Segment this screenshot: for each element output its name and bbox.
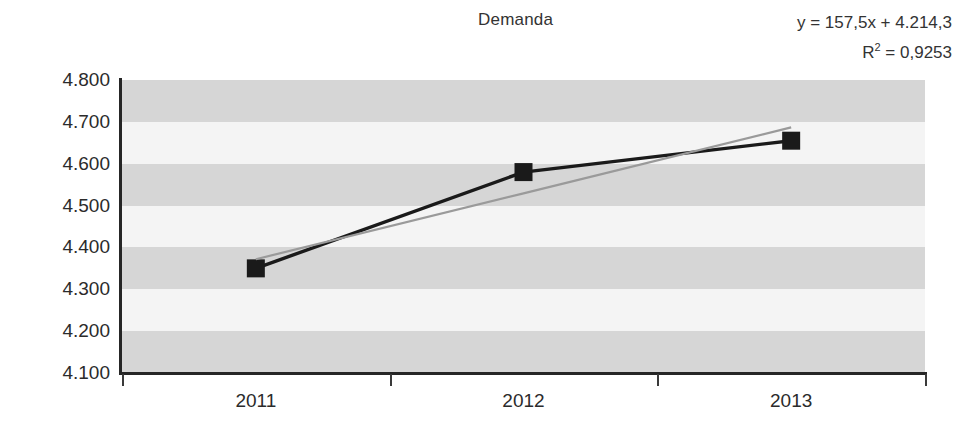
grid-band <box>122 122 925 164</box>
grid-band <box>122 331 925 373</box>
plot-area <box>122 80 925 373</box>
x-axis-tick-label: 2013 <box>770 390 812 412</box>
chart-screenshot: Demanda y = 157,5x + 4.214,3 R2 = 0,9253… <box>0 0 964 441</box>
y-axis-tick-label: 4.700 <box>26 111 110 133</box>
grid-band <box>122 247 925 289</box>
x-axis-end-tick <box>122 374 124 386</box>
chart-title: Demanda <box>478 10 553 30</box>
r-squared-line: R2 = 0,9253 <box>797 35 952 65</box>
y-axis-tick-label: 4.200 <box>26 320 110 342</box>
y-axis-labels: 4.8004.7004.6004.5004.4004.3004.2004.100 <box>14 0 110 441</box>
x-axis-tick-label: 2012 <box>502 390 544 412</box>
grid-band <box>122 164 925 206</box>
y-axis-tick-label: 4.400 <box>26 236 110 258</box>
x-axis-end-tick <box>925 374 927 386</box>
grid-band <box>122 206 925 248</box>
y-axis-tick-label: 4.600 <box>26 153 110 175</box>
r-squared-value: = 0,9253 <box>881 43 952 62</box>
grid-band <box>122 289 925 331</box>
y-axis-tick-label: 4.300 <box>26 278 110 300</box>
regression-equation: y = 157,5x + 4.214,3 <box>797 10 952 35</box>
x-axis-tick <box>657 374 659 386</box>
x-axis-tick-label: 2011 <box>235 390 276 412</box>
grid-band <box>122 80 925 122</box>
y-axis-line <box>119 78 122 375</box>
regression-annotation: y = 157,5x + 4.214,3 R2 = 0,9253 <box>797 10 952 65</box>
y-axis-tick-label: 4.500 <box>26 195 110 217</box>
r-squared-symbol: R <box>862 43 874 62</box>
y-axis-tick-label: 4.100 <box>26 362 110 384</box>
x-axis-tick <box>390 374 392 386</box>
x-axis-line <box>119 372 927 375</box>
y-axis-tick-label: 4.800 <box>26 69 110 91</box>
